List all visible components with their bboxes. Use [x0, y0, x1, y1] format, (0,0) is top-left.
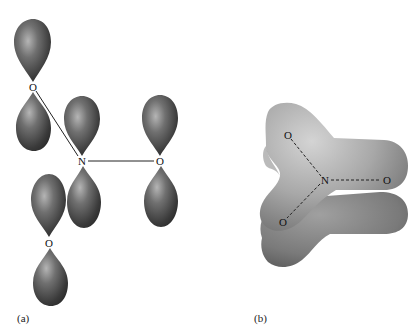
p-orbital-lobe [31, 174, 66, 237]
p-orbital-lobe [16, 92, 51, 151]
p-orbital-lobe [64, 96, 100, 156]
panel-a-caption: (a) [17, 312, 30, 325]
atom-label-oxygen: O [279, 216, 287, 228]
p-orbital-lobe [144, 166, 178, 227]
p-orbital-lobe [67, 166, 101, 228]
atom-label-nitrogen: N [321, 174, 329, 186]
p-orbital-lobe [142, 95, 178, 156]
panel-b: O N O O (b) [254, 103, 408, 325]
atom-label-oxygen: O [45, 237, 53, 249]
atom-label-oxygen: O [383, 174, 391, 186]
atom-label-oxygen: O [284, 129, 292, 141]
p-orbital-lobe [33, 248, 68, 306]
atom-label-nitrogen: N [78, 155, 86, 167]
panel-a: O N O O (a) [14, 19, 178, 325]
p-orbital-lobe [14, 19, 51, 82]
atom-label-oxygen: O [156, 155, 164, 167]
panel-b-caption: (b) [254, 312, 267, 325]
atom-label-oxygen: O [29, 81, 37, 93]
nitrate-orbital-diagram: O N O O (a) O N O O (b) [0, 0, 418, 335]
